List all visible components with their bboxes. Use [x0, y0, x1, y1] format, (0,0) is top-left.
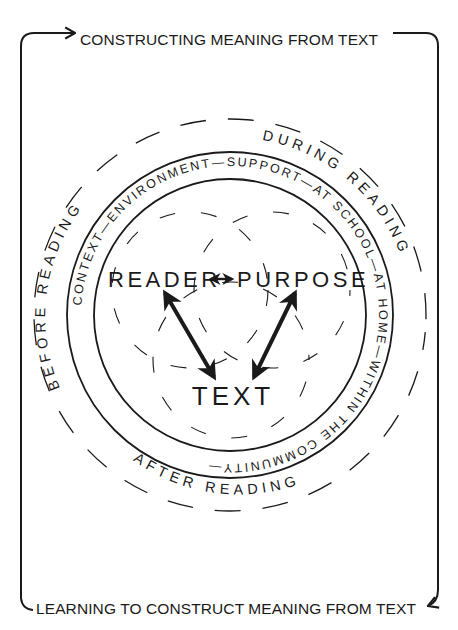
venn-circle-text: [153, 282, 309, 438]
purpose-text-double-arrow: [254, 293, 295, 377]
bottom-label: LEARNING TO CONSTRUCT MEANING FROM TEXT: [36, 600, 416, 617]
constructing-meaning-diagram: CONSTRUCTING MEANING FROM TEXT LEARNING …: [0, 0, 458, 630]
purpose-label: PURPOSE: [237, 267, 369, 292]
reader-text-double-arrow: [165, 293, 214, 377]
diagram-canvas: CONSTRUCTING MEANING FROM TEXT LEARNING …: [0, 0, 458, 630]
reader-label: READER: [108, 267, 221, 292]
frame-right-arrow: [393, 33, 438, 606]
text-label: TEXT: [192, 381, 274, 411]
ring-context-text: CONTEXT—ENVIRONMENT—SUPPORT—AT SCHOOL—AT…: [70, 155, 390, 475]
frame-bottom-left-corner: [21, 560, 33, 610]
top-label: CONSTRUCTING MEANING FROM TEXT: [80, 31, 379, 48]
